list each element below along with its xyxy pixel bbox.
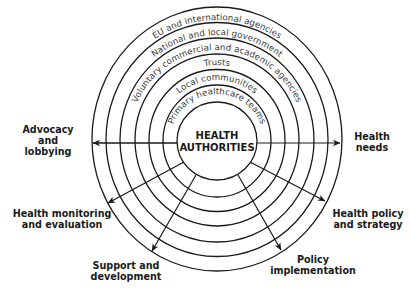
arrow-implementation — [238, 175, 281, 250]
label-monitoring: Health monitoring and evaluation — [12, 208, 112, 230]
ring-center — [177, 102, 257, 180]
label-health-needs-line2: needs — [350, 142, 394, 153]
label-policy-strategy: Health policy and strategy — [328, 208, 408, 230]
arrow-monitoring — [108, 162, 184, 203]
ring-label-trusts: Trusts — [202, 57, 231, 68]
label-monitoring-line1: Health monitoring — [12, 208, 112, 219]
label-support: Support and development — [86, 260, 166, 282]
arrow-support — [152, 175, 196, 251]
label-advocacy-line1: Advocacy — [18, 124, 78, 135]
label-support-line2: development — [86, 271, 166, 282]
label-monitoring-line2: and evaluation — [12, 219, 112, 230]
label-advocacy-line3: lobbying — [18, 146, 78, 157]
label-health-needs: Health needs — [350, 131, 394, 153]
label-advocacy: Advocacy and lobbying — [18, 124, 78, 157]
label-support-line1: Support and — [86, 260, 166, 271]
label-advocacy-line2: and — [18, 135, 78, 146]
label-policy-strategy-line1: Health policy — [328, 208, 408, 219]
center-label-line2: AUTHORITIES — [179, 142, 254, 153]
label-implementation-line2: implementation — [268, 265, 358, 276]
label-policy-strategy-line2: and strategy — [328, 219, 408, 230]
label-implementation-line1: Policy — [268, 254, 358, 265]
label-implementation: Policy implementation — [268, 254, 358, 276]
center-label-line1: HEALTH — [196, 130, 239, 141]
label-health-needs-line1: Health — [350, 131, 394, 142]
